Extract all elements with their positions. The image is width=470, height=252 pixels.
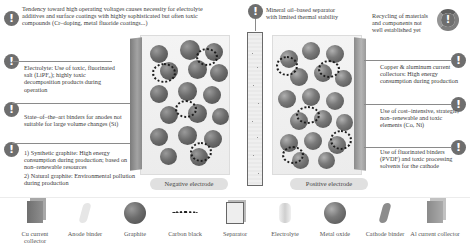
leader-line [12,103,140,104]
note-recycling: Recycling of materials and components no… [372,12,432,34]
legend-item: Graphite [110,200,160,237]
legend-item: Separator [210,200,260,237]
legend-item: Metal oxide [310,200,360,237]
warning-icon: ! [248,4,263,19]
graphite-particle [150,128,168,146]
carbon-black-chain [296,106,320,124]
carbon-black-chain [152,63,176,83]
separator-icon [222,200,248,226]
graphite-particle [160,148,177,165]
carbon-black-chain [276,56,298,76]
cu-collector-icon [22,200,48,226]
metal-oxide-particle [336,114,353,131]
warning-icon: ! [4,11,19,26]
legend-item: Anode binder [60,200,110,237]
legend-item: Al current collector [410,200,460,237]
carbon-black-chain [318,60,340,78]
leader-line [255,19,256,31]
carbon-black-chain [330,130,352,150]
note-current-collectors: Copper & aluminum current collectors: Hi… [380,63,460,85]
leader-line [12,61,112,62]
carbon-black-chain [282,146,304,164]
metal-oxide-particle [304,132,322,150]
legend-item: Carbon black [160,200,210,237]
al-collector-icon [422,200,448,226]
positive-electrode-label: Positive electrode [290,178,368,190]
carbon-black-chain [175,100,197,118]
note-high-voltage: Tendency toward high operating voltages … [22,5,207,27]
legend-divider [0,197,470,198]
warning-icon: ! [4,102,19,117]
leader-line [12,143,140,144]
legend-item: Cu current collector [10,200,60,244]
anode-binder-icon [72,200,98,226]
metal-oxide-particle [326,92,344,110]
carbon-black-chain [190,142,212,162]
legend-item: Electrolyte [260,200,310,237]
warning-icon: ! [4,142,19,157]
legend-item: Cathode binder [360,200,410,237]
note-anode-binder: State–of–the–art binders for anodes not … [24,113,124,127]
electrolyte-icon [272,200,298,226]
note-electrolyte: Electrolyte: Use of toxic, fluorinated s… [24,64,116,93]
separator [247,32,263,186]
leader-line [364,104,452,105]
cathode-binder-icon [372,200,398,226]
metal-oxide-particle [302,42,320,60]
graphite-icon [122,200,148,226]
graphite-particle [210,64,228,82]
note-graphite-2: 2) Natural graphite: Environmental pollu… [24,172,136,186]
metal-oxide-particle [302,88,320,106]
cu-current-collector [130,37,142,171]
carbon-black-icon [172,200,198,226]
graphite-particle [203,86,221,104]
leader-line [364,60,452,61]
metal-oxide-icon [322,200,348,226]
graphite-particle [150,85,168,103]
graphite-particle [212,108,229,125]
note-separator: Mineral oil–based separator with limited… [266,6,341,20]
warning-icon: ! [441,13,455,27]
negative-electrode-label: Negative electrode [150,178,228,190]
note-cathode-binder: Use of fluorinated binders (PVDF) and to… [380,148,460,170]
note-cathode-elements: Use of cost–intensive, strategic, non–re… [380,107,460,129]
metal-oxide-particle [318,152,335,169]
graphite-particle [178,126,197,145]
note-graphite-1: 1) Synthetic graphite: High energy consu… [24,149,136,171]
carbon-black-chain [196,48,218,66]
metal-oxide-particle [278,90,296,108]
graphite-particle [150,45,168,63]
graphite-particle [178,82,197,101]
